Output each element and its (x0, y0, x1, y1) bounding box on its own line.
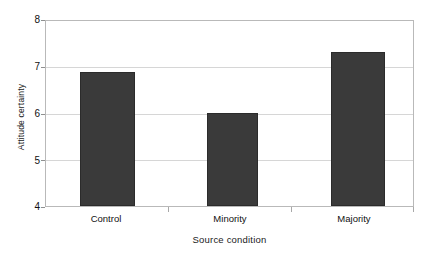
x-tick-mark (168, 207, 169, 212)
x-tick-mark (413, 207, 414, 212)
x-tick-label-majority: Majority (310, 213, 398, 225)
plot-area (45, 20, 414, 207)
bar-control (80, 72, 135, 206)
x-tick-label-control: Control (61, 213, 151, 225)
y-tick-label: 5 (26, 156, 40, 166)
y-tick-label: 8 (26, 15, 40, 25)
y-tick-mark (41, 207, 45, 208)
x-tick-label-minority: Minority (186, 213, 274, 225)
bar-minority (207, 113, 258, 206)
bar-majority (331, 52, 385, 206)
x-axis-title: Source condition (45, 234, 414, 246)
x-tick-mark (291, 207, 292, 212)
y-tick-label: 6 (26, 109, 40, 119)
y-tick-label: 4 (26, 202, 40, 212)
bar-chart: Attitude certainty 8 7 6 5 4 Control Min… (0, 0, 430, 260)
y-axis-tick-labels: 8 7 6 5 4 (26, 0, 40, 260)
y-tick-label: 7 (26, 62, 40, 72)
